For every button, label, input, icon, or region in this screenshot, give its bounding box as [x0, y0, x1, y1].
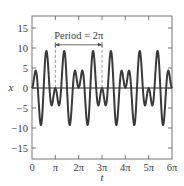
x-tick-label: 6π — [167, 162, 178, 173]
y-tick-label: 15 — [18, 23, 29, 34]
y-tick-label: −10 — [12, 123, 28, 134]
period-arrow — [55, 42, 102, 47]
x-tick-label: 2π — [73, 162, 84, 173]
y-tick-label: −15 — [12, 143, 28, 154]
arrowhead-left-icon — [55, 43, 59, 47]
y-tick-labels: 151050−5−10−15 — [12, 23, 28, 154]
x-tick-label: π — [53, 162, 59, 173]
y-tick-label: −5 — [17, 103, 28, 114]
x-tick-labels: 0π2π3π4π5π6π — [29, 162, 178, 173]
period-label: Period = 2π — [54, 30, 104, 41]
y-tick-label: 10 — [18, 43, 29, 54]
period-chart: 0π2π3π4π5π6π 151050−5−10−15 Period = 2π … — [0, 0, 184, 186]
y-tick-label: 0 — [23, 83, 28, 94]
arrowhead-right-icon — [98, 43, 102, 47]
x-tick-label: 4π — [120, 162, 131, 173]
x-tick-label: 0 — [29, 162, 34, 173]
y-axis-label: x — [8, 81, 14, 93]
x-tick-label: 5π — [143, 162, 154, 173]
y-tick-label: 5 — [23, 63, 28, 74]
